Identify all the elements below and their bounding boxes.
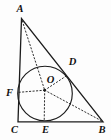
dashed-line-center-to-b xyxy=(45,90,102,121)
point-label-d: D xyxy=(68,56,77,67)
dashed-line-a-to-center xyxy=(22,21,44,90)
point-label-e: E xyxy=(41,124,49,135)
vertex-label-b: B xyxy=(97,124,105,135)
vertex-label-a: A xyxy=(15,3,23,14)
dashed-line-f-to-center xyxy=(19,90,45,92)
circle-center-dot xyxy=(43,89,46,92)
point-label-f: F xyxy=(5,87,13,98)
center-label-o: O xyxy=(47,74,55,85)
dashed-line-center-to-e xyxy=(44,90,45,121)
geometry-canvas: A B C D E F O xyxy=(0,0,111,140)
geometry-figure: A B C D E F O xyxy=(0,0,111,140)
vertex-label-c: C xyxy=(11,124,19,135)
